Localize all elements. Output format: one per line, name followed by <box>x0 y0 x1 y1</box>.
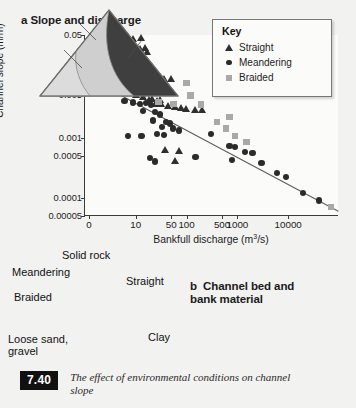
x-tick-mark <box>288 215 289 219</box>
label-solid-rock: Solid rock <box>62 249 110 261</box>
x-tick-mark <box>136 215 137 219</box>
data-point-meandering <box>176 127 182 133</box>
label-clay: Clay <box>148 331 170 343</box>
data-point-meandering <box>283 174 289 180</box>
data-point-meandering <box>150 117 156 123</box>
data-point-meandering <box>249 150 255 156</box>
data-point-meandering <box>300 190 306 196</box>
label-straight-region: Straight <box>126 275 164 287</box>
data-point-meandering <box>242 149 248 155</box>
y-tick-label: 0.00005 <box>48 211 82 221</box>
x-tick-label: 1000 <box>226 219 248 230</box>
x-tick-label: 10 <box>130 219 141 230</box>
data-point-braided <box>328 204 334 210</box>
y-tick-label: 0.0005 <box>54 151 82 161</box>
label-loose-sand-gravel: Loose sand,gravel <box>8 334 68 357</box>
data-point-meandering <box>274 170 280 176</box>
x-axis-label: Bankfull discharge (m3/s) <box>84 233 338 245</box>
y-tick-mark <box>81 138 85 139</box>
figure-number-badge: 7.40 <box>20 371 58 390</box>
data-point-meandering <box>232 144 238 150</box>
data-point-meandering <box>159 124 165 130</box>
chart-legend: Key Straight Meandering Braided <box>212 19 332 97</box>
y-axis-label: Channel slope (m/m) <box>0 23 5 118</box>
data-point-meandering <box>316 197 322 203</box>
x-tick-mark <box>171 215 172 219</box>
figure-caption: 7.40 The effect of environmental conditi… <box>20 371 300 397</box>
x-tick-mark <box>237 215 238 219</box>
data-point-braided <box>232 133 238 139</box>
legend-label-meandering: Meandering <box>239 57 292 68</box>
data-point-meandering <box>258 160 264 166</box>
ternary-diagram <box>30 6 190 106</box>
x-tick-mark <box>89 215 90 219</box>
data-point-meandering <box>140 108 146 114</box>
data-point-meandering <box>229 157 235 163</box>
data-point-braided <box>226 114 232 120</box>
data-point-meandering <box>192 154 198 160</box>
data-point-meandering <box>161 132 167 138</box>
x-tick-label: 10000 <box>275 219 302 230</box>
data-point-meandering <box>208 131 214 137</box>
x-tick-mark <box>222 215 223 219</box>
x-tick-label: 50 <box>166 219 177 230</box>
y-tick-mark <box>81 198 85 199</box>
legend-item-braided: Braided <box>222 70 331 85</box>
data-point-straight <box>161 146 169 153</box>
data-point-meandering <box>125 133 131 139</box>
data-point-straight <box>171 157 179 164</box>
legend-item-straight: Straight <box>222 40 331 55</box>
label-braided-region: Braided <box>14 291 52 303</box>
data-point-meandering <box>154 131 160 137</box>
data-point-braided <box>214 119 220 125</box>
data-point-braided <box>198 101 204 107</box>
legend-label-braided: Braided <box>239 72 273 83</box>
y-tick-label: 0.0001 <box>54 193 82 203</box>
data-point-straight <box>182 105 190 112</box>
legend-title: Key <box>222 25 331 37</box>
data-point-meandering <box>157 111 163 117</box>
data-point-braided <box>243 139 249 145</box>
panel-b-title: b Channel bed andbank material <box>190 280 294 306</box>
figure-caption-text: The effect of environmental conditions o… <box>70 371 300 397</box>
triangle-marker-icon <box>222 44 236 51</box>
square-marker-icon <box>222 75 236 81</box>
y-tick-mark <box>81 216 85 217</box>
figure-page: a Slope and discharge Channel slope (m/m… <box>0 0 356 408</box>
x-tick-label: 100 <box>178 219 194 230</box>
legend-label-straight: Straight <box>239 42 273 53</box>
legend-item-meandering: Meandering <box>222 55 331 70</box>
y-tick-label: 0.001 <box>59 133 82 143</box>
data-point-straight <box>175 147 183 154</box>
x-tick-mark <box>187 215 188 219</box>
circle-marker-icon <box>222 60 236 66</box>
data-point-meandering <box>138 133 144 139</box>
y-tick-mark <box>81 156 85 157</box>
data-point-meandering <box>152 158 158 164</box>
data-point-braided <box>223 125 229 131</box>
label-meandering-region: Meandering <box>12 266 70 278</box>
x-tick-label: 0 <box>86 219 91 230</box>
